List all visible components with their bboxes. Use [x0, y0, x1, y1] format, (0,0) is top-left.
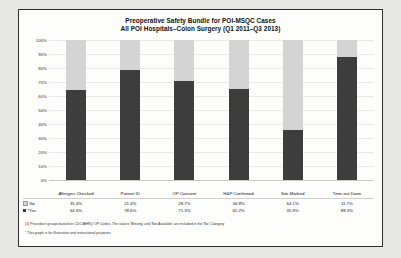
bar-segment-no	[229, 40, 249, 89]
x-axis-category-label: Site Marked	[269, 191, 317, 196]
bar-segment-yes	[229, 89, 249, 180]
table-cell-no: 34.8%	[215, 201, 263, 206]
bar-segment-no	[283, 40, 303, 130]
bar-op-consent	[174, 40, 194, 180]
legend-item-yes: *Yes	[23, 208, 49, 213]
footnotes: (1) Procedure groups based on CDC/AHRQ O…	[19, 222, 382, 236]
x-axis-category-label: Allergies Checked	[52, 191, 100, 196]
y-axis-tick-label: 70%	[38, 80, 47, 85]
footnote-2: * This graph is for illustrative and ins…	[25, 231, 382, 236]
table-cell-yes: 78.6%	[106, 208, 154, 213]
y-axis-tick-label: 20%	[38, 150, 47, 155]
plot-area: 0%10%20%30%40%50%60%70%80%90%100%	[19, 40, 382, 188]
data-row-no: No 35.4%21.4%28.7%34.8%64.1%11.7%	[23, 199, 374, 207]
y-axis-tick-label: 100%	[36, 38, 47, 43]
bar-allergies-checked	[66, 40, 86, 180]
legend-label-no: No	[30, 201, 36, 206]
y-axis: 0%10%20%30%40%50%60%70%80%90%100%	[23, 40, 47, 180]
table-cell-yes: 35.9%	[269, 208, 317, 213]
category-label-row: Allergies CheckedPatient IDOP ConsentH&P…	[23, 189, 374, 199]
bar-segment-no	[174, 40, 194, 80]
values-yes: 64.6%78.6%71.3%65.2%35.9%88.3%	[49, 208, 374, 213]
bar-segment-no	[66, 40, 86, 90]
y-axis-tick-label: 60%	[38, 94, 47, 99]
y-axis-tick-label: 10%	[38, 164, 47, 169]
bar-segment-yes	[337, 57, 357, 181]
chart-title-line1: Preoperative Safety Bundle for POI-MSQC …	[19, 17, 382, 25]
x-axis-category-label: Time-out Done	[323, 191, 371, 196]
data-row-yes: *Yes 64.6%78.6%71.3%65.2%35.9%88.3%	[23, 207, 374, 215]
bar-segment-yes	[120, 70, 140, 180]
bar-segment-yes	[283, 130, 303, 180]
table-cell-no: 11.7%	[323, 201, 371, 206]
gridline	[49, 180, 374, 181]
legend-item-no: No	[23, 201, 49, 206]
y-axis-tick-label: 30%	[38, 136, 47, 141]
document-page: Preoperative Safety Bundle for POI-MSQC …	[18, 9, 383, 247]
footnote-1: (1) Procedure groups based on CDC/AHRQ O…	[25, 222, 382, 227]
table-cell-yes: 71.3%	[160, 208, 208, 213]
y-axis-tick-label: 50%	[38, 108, 47, 113]
chart-title-line2: All POI Hospitals–Colon Surgery (Q1 2011…	[19, 25, 382, 33]
bar-series-container	[49, 40, 374, 180]
y-axis-tick-label: 0%	[41, 178, 47, 183]
chart-title: Preoperative Safety Bundle for POI-MSQC …	[19, 17, 382, 33]
table-cell-yes: 88.3%	[323, 208, 371, 213]
y-axis-tick-label: 40%	[38, 122, 47, 127]
bar-site-marked	[283, 40, 303, 180]
y-axis-tick-label: 80%	[38, 66, 47, 71]
bar-time-out-done	[337, 40, 357, 180]
table-cell-no: 28.7%	[160, 201, 208, 206]
bar-patient-id	[120, 40, 140, 180]
bar-segment-yes	[174, 81, 194, 181]
table-cell-no: 35.4%	[52, 201, 100, 206]
bar-segment-yes	[66, 90, 86, 180]
values-no: 35.4%21.4%28.7%34.8%64.1%11.7%	[49, 201, 374, 206]
table-cell-no: 21.4%	[106, 201, 154, 206]
table-cell-no: 64.1%	[269, 201, 317, 206]
x-axis-category-label: OP Consent	[160, 191, 208, 196]
x-axis-category-label: H&P Confirmed	[215, 191, 263, 196]
legend-swatch-yes-icon	[23, 209, 26, 212]
table-cell-yes: 65.2%	[215, 208, 263, 213]
legend-swatch-no-icon	[23, 201, 28, 206]
x-axis-category-label: Patient ID	[106, 191, 154, 196]
y-axis-tick-label: 90%	[38, 52, 47, 57]
legend-label-yes: *Yes	[28, 208, 37, 213]
category-labels: Allergies CheckedPatient IDOP ConsentH&P…	[49, 191, 374, 196]
bar-h-p-confirmed	[229, 40, 249, 180]
data-table: Allergies CheckedPatient IDOP ConsentH&P…	[19, 189, 382, 214]
bar-segment-no	[337, 40, 357, 56]
table-cell-yes: 64.6%	[52, 208, 100, 213]
bar-segment-no	[120, 40, 140, 70]
